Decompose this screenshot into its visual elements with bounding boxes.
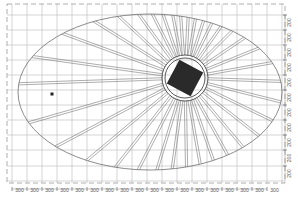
radial-beam — [64, 33, 164, 69]
dimension-label: 200 — [286, 93, 292, 102]
dimension-label: 200 — [286, 18, 292, 27]
dimension-label: 300 — [165, 187, 174, 193]
radial-beam — [208, 78, 280, 81]
radial-beam — [117, 16, 167, 63]
dimension-label: 200 — [286, 63, 292, 72]
dimension-label: 300 — [240, 187, 249, 193]
dimension-label: 300 — [255, 187, 264, 193]
bottom-dimension-labels: 3003003003003003003003003003003003003003… — [12, 187, 279, 193]
radial-beam — [204, 91, 260, 135]
radial-beam — [33, 56, 162, 74]
radial-beam — [200, 30, 231, 61]
dimension-label: 300 — [75, 187, 84, 193]
radial-beam — [182, 16, 185, 55]
dimension-label: 300 — [180, 187, 189, 193]
radial-beam — [29, 85, 163, 123]
radial-beam — [164, 14, 178, 55]
radial-beam — [19, 80, 163, 85]
right-dimension-labels: 200200200200200200200200200200200 — [283, 15, 292, 181]
radial-beam — [96, 21, 166, 65]
radial-beam — [117, 97, 172, 168]
radial-beam — [184, 101, 185, 167]
dimension-label: 300 — [60, 187, 69, 193]
dimension-label: 300 — [135, 187, 144, 193]
radial-beam — [208, 64, 273, 75]
radial-beam — [140, 14, 172, 59]
radial-beam — [61, 34, 163, 71]
dimension-label: 300 — [210, 187, 219, 193]
radial-beam — [208, 80, 281, 83]
radial-beam — [180, 16, 183, 55]
dimension-label: 200 — [286, 138, 292, 147]
radial-beam — [114, 95, 170, 167]
radial-beam — [208, 82, 282, 100]
radial-beam — [139, 99, 175, 170]
radial-beam — [120, 16, 169, 61]
radial-beam — [162, 14, 177, 56]
radial-beam — [174, 15, 182, 55]
radial-beam — [187, 101, 188, 167]
dimension-label: 300 — [15, 187, 24, 193]
radial-beam — [55, 88, 164, 146]
radial-beam — [205, 89, 272, 122]
dimension-label: 200 — [286, 33, 292, 42]
radial-beam — [185, 17, 187, 55]
radial-beam — [207, 85, 281, 103]
dimension-label: 300 — [195, 187, 204, 193]
radial-beam — [191, 100, 212, 161]
dimension-label: 300 — [120, 187, 129, 193]
central-column-square — [167, 60, 204, 97]
dimension-label: 300 — [150, 187, 159, 193]
dimension-label: 300 — [225, 187, 234, 193]
radial-beam — [191, 20, 202, 55]
point-marker — [51, 93, 54, 96]
dimension-label: 200 — [286, 78, 292, 87]
radial-beam — [197, 26, 220, 59]
dimension-label: 300 — [90, 187, 99, 193]
radial-beam — [205, 38, 246, 66]
radial-beam — [19, 78, 162, 83]
dimension-label: 200 — [286, 48, 292, 57]
radial-beam — [172, 15, 180, 56]
radial-beam — [207, 62, 271, 73]
dimension-label: 300 — [270, 187, 279, 193]
dimension-label: 300 — [45, 187, 54, 193]
dimension-label: 300 — [105, 187, 114, 193]
radial-beam — [199, 27, 222, 60]
dimension-label: 200 — [286, 123, 292, 132]
radial-beams — [19, 14, 282, 170]
dimension-label: 300 — [30, 187, 39, 193]
dimension-label: 200 — [286, 169, 292, 178]
elliptical-outline — [18, 14, 282, 170]
dimension-label: 200 — [286, 154, 292, 163]
central-core — [162, 55, 208, 101]
structural-plan-drawing: 3003003003003003003003003003003003003003… — [0, 0, 298, 202]
radial-beam — [28, 83, 163, 122]
dimension-label: 200 — [286, 108, 292, 117]
